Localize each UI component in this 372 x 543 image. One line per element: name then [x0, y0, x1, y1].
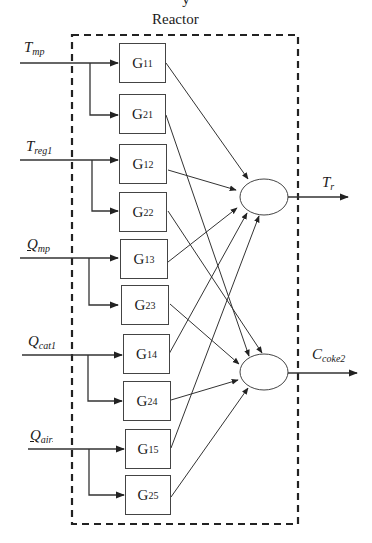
input-label-qcat1: Qcat1	[28, 334, 56, 351]
summing-junction-1	[240, 179, 288, 215]
block-g11: G11	[119, 43, 166, 83]
block-g25: G25	[125, 475, 171, 515]
diagram-canvas	[0, 0, 372, 543]
output-label-tr: Tr	[322, 175, 334, 192]
block-g15: G15	[125, 429, 171, 469]
block-g13: G13	[120, 239, 168, 279]
input-label-tmp: Tmp	[24, 40, 45, 57]
block-g21: G21	[119, 94, 166, 134]
block-g14: G14	[123, 334, 170, 374]
block-connections	[166, 63, 262, 497]
summing-junction-2	[240, 354, 288, 390]
block-g22: G22	[119, 192, 167, 232]
input-label-treg1: Treg1	[26, 139, 52, 156]
input-label-qair: Qair	[30, 428, 53, 445]
output-label-ccoke2: Ccoke2	[312, 347, 345, 364]
reactor-label: Reactor	[152, 12, 199, 27]
input-label-qmp: Qmp	[27, 237, 50, 254]
reactor-boundary	[72, 35, 298, 524]
block-g12: G12	[119, 144, 167, 184]
block-g23: G23	[121, 285, 169, 325]
block-g24: G24	[123, 381, 171, 421]
